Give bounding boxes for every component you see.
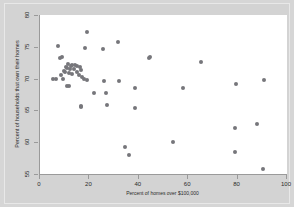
x-axis-tick-label: 100	[277, 180, 294, 188]
x-axis-tick-mark	[88, 175, 89, 179]
y-axis-tick-mark	[34, 142, 38, 143]
x-axis-tick-mark	[286, 175, 287, 179]
data-point	[171, 140, 175, 144]
data-point	[116, 40, 120, 44]
data-point	[79, 68, 83, 72]
data-point	[70, 72, 74, 76]
data-point	[58, 56, 62, 60]
data-point	[117, 79, 121, 83]
y-axis-tick-mark	[34, 174, 38, 175]
data-point	[147, 56, 151, 60]
data-point	[123, 145, 127, 149]
data-point	[127, 153, 131, 157]
data-point	[233, 150, 237, 154]
data-point	[261, 167, 265, 171]
x-axis-tick-label: 80	[228, 180, 246, 188]
y-axis-tick-mark	[34, 79, 38, 80]
y-axis-tick-mark	[34, 110, 38, 111]
y-axis-tick-mark	[34, 47, 38, 48]
plot-frame: Percent of households that own their hom…	[5, 4, 291, 205]
y-axis-tick-label: 70	[21, 75, 33, 83]
x-axis-tick-label: 40	[129, 180, 147, 188]
data-point	[67, 84, 71, 88]
scatter-plot-area	[39, 15, 287, 175]
y-axis-tick-label: 65	[21, 106, 33, 114]
x-axis-tick-mark	[237, 175, 238, 179]
data-point	[133, 106, 137, 110]
data-point	[255, 122, 259, 126]
y-axis-tick-label: 80	[21, 11, 33, 19]
data-point	[56, 44, 60, 48]
data-point	[104, 91, 108, 95]
x-axis-tick-label: 20	[79, 180, 97, 188]
data-point	[181, 86, 185, 90]
data-point	[85, 78, 89, 82]
y-axis-tick-label: 60	[21, 138, 33, 146]
data-point	[85, 30, 89, 34]
data-point	[262, 78, 266, 82]
x-axis-tick-label: 0	[30, 180, 48, 188]
data-point	[133, 86, 137, 90]
x-axis-tick-mark	[138, 175, 139, 179]
data-point	[233, 126, 237, 130]
data-point	[79, 105, 83, 109]
x-axis-tick-mark	[39, 175, 40, 179]
data-point	[234, 82, 238, 86]
data-point	[92, 91, 96, 95]
x-axis-tick-label: 60	[178, 180, 196, 188]
data-point	[54, 77, 58, 81]
data-point	[102, 79, 106, 83]
y-axis-tick-mark	[34, 15, 38, 16]
y-axis-title: Percent of households that own their hom…	[12, 14, 22, 174]
chart-figure: Percent of households that own their hom…	[4, 3, 290, 204]
y-axis-tick-label: 75	[21, 43, 33, 51]
data-point	[105, 103, 109, 107]
data-point	[101, 47, 105, 51]
x-axis-tick-mark	[187, 175, 188, 179]
data-point	[61, 77, 65, 81]
data-point	[199, 60, 203, 64]
data-point	[83, 46, 87, 50]
x-axis-title: Percent of homes over $100,000	[39, 190, 286, 197]
y-axis-tick-label: 55	[21, 170, 33, 178]
